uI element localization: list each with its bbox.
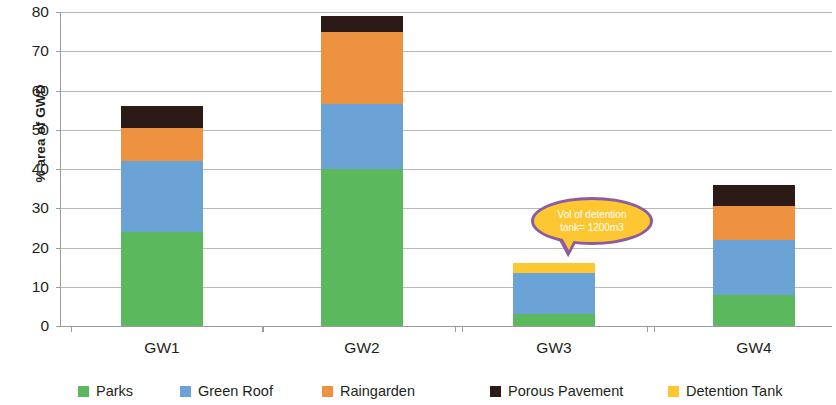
bar-segment-raingarden	[713, 206, 795, 239]
legend-item-raingarden[interactable]: Raingarden	[322, 383, 415, 399]
bar-gw1	[121, 106, 203, 326]
x-axis-separator-tick	[71, 326, 72, 332]
y-tick-10	[56, 287, 61, 288]
y-tick-label: 10	[32, 278, 49, 296]
y-tick-80	[56, 12, 61, 13]
x-axis-separator-tick	[263, 326, 264, 332]
legend-item-parks[interactable]: Parks	[78, 383, 133, 399]
y-tick-30	[56, 208, 61, 209]
legend-label: Raingarden	[340, 383, 415, 399]
y-tick-70	[56, 51, 61, 52]
bar-segment-parks	[513, 314, 595, 326]
x-axis-label-gw3: GW3	[536, 339, 571, 357]
legend-label: Green Roof	[198, 383, 273, 399]
x-axis-separator-tick	[455, 326, 456, 332]
bar-gw4	[713, 185, 795, 326]
x-tick	[462, 326, 463, 332]
gridline-0	[61, 326, 832, 327]
legend-item-detention-tank[interactable]: Detention Tank	[668, 383, 782, 399]
legend-swatch-icon	[490, 386, 501, 397]
y-tick-label: 30	[32, 199, 49, 217]
x-axis-label-gw1: GW1	[144, 339, 179, 357]
legend-swatch-icon	[668, 386, 679, 397]
y-tick-label: 20	[32, 239, 49, 257]
detention-tank-callout: Vol of detention tank= 1200m3	[531, 197, 653, 245]
bar-segment-green-roof	[121, 161, 203, 232]
plot-area: 01020304050607080GW1GW2GW3GW4	[60, 12, 832, 326]
bar-gw3	[513, 263, 595, 326]
y-tick-label: 0	[40, 317, 49, 335]
legend-label: Detention Tank	[686, 383, 782, 399]
bar-segment-green-roof	[321, 104, 403, 169]
bar-segment-parks	[121, 232, 203, 326]
bar-segment-porous-pavement	[713, 185, 795, 207]
y-tick-label: 50	[32, 121, 49, 139]
legend-label: Porous Pavement	[508, 383, 623, 399]
bar-segment-raingarden	[121, 128, 203, 161]
y-tick-label: 60	[32, 82, 49, 100]
callout-text: Vol of detention tank= 1200m3	[531, 197, 653, 245]
x-axis-label-gw4: GW4	[736, 339, 771, 357]
x-axis-label-gw2: GW2	[344, 339, 379, 357]
gridline-80	[61, 12, 832, 13]
callout-line-2: tank= 1200m3	[560, 221, 624, 234]
bar-segment-porous-pavement	[121, 106, 203, 128]
y-tick-label: 80	[32, 3, 49, 21]
x-tick	[654, 326, 655, 332]
legend-item-porous-pavement[interactable]: Porous Pavement	[490, 383, 623, 399]
bar-segment-parks	[713, 295, 795, 326]
chart-legend: ParksGreen RoofRaingardenPorous Pavement…	[0, 380, 836, 402]
gridline-60	[61, 91, 832, 92]
gridline-70	[61, 51, 832, 52]
legend-item-green-roof[interactable]: Green Roof	[180, 383, 273, 399]
x-axis-separator-tick	[647, 326, 648, 332]
legend-swatch-icon	[322, 386, 333, 397]
bar-segment-parks	[321, 169, 403, 326]
y-tick-20	[56, 248, 61, 249]
bar-segment-porous-pavement	[321, 16, 403, 32]
callout-line-1: Vol of detention	[558, 208, 627, 221]
y-tick-label: 40	[32, 160, 49, 178]
legend-swatch-icon	[180, 386, 191, 397]
legend-label: Parks	[96, 383, 133, 399]
y-tick-label: 70	[32, 42, 49, 60]
bar-segment-green-roof	[713, 240, 795, 295]
stacked-bar-chart: % area of GWD 01020304050607080GW1GW2GW3…	[0, 0, 836, 405]
bar-segment-green-roof	[513, 273, 595, 314]
bar-segment-raingarden	[321, 32, 403, 105]
bar-segment-detention-tank	[513, 263, 595, 273]
y-tick-60	[56, 91, 61, 92]
y-tick-50	[56, 130, 61, 131]
bar-gw2	[321, 16, 403, 326]
y-tick-0	[56, 326, 61, 327]
legend-swatch-icon	[78, 386, 89, 397]
y-tick-40	[56, 169, 61, 170]
